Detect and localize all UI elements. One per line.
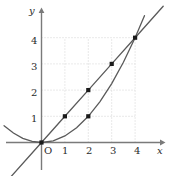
curve-parabola	[4, 16, 144, 143]
x-axis-label: x	[157, 146, 163, 156]
y-axis-label: y	[29, 6, 35, 16]
y-tick-label-4: 4	[31, 36, 37, 46]
y-axis-arrow	[39, 8, 45, 14]
data-point-marker	[63, 114, 67, 118]
x-tick-label-2: 2	[86, 146, 92, 156]
data-point-marker	[39, 140, 43, 144]
graph-figure: y x O 1 2 3 4 1 2 3 4	[0, 0, 174, 176]
y-tick-label-2: 2	[31, 88, 37, 98]
x-tick-label-4: 4	[134, 146, 140, 156]
data-point-marker	[86, 114, 90, 118]
x-tick-label-3: 3	[110, 146, 116, 156]
data-point-marker	[110, 62, 114, 66]
data-point-marker	[86, 88, 90, 92]
origin-label: O	[44, 146, 52, 156]
y-tick-label-1: 1	[31, 114, 37, 124]
data-point-marker	[133, 36, 137, 40]
x-tick-label-1: 1	[62, 146, 68, 156]
y-tick-label-3: 3	[31, 62, 37, 72]
